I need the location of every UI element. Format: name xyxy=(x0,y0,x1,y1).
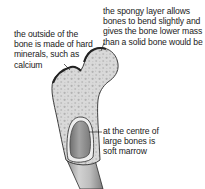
label-marrow: at the centre of large bones is soft mar… xyxy=(103,126,159,157)
marrow-cavity xyxy=(67,117,94,162)
label-line: soft marrow xyxy=(103,146,159,156)
label-line: bone is made of hard xyxy=(14,39,93,49)
label-line: calcium xyxy=(14,60,93,70)
label-line: than a solid bone would be xyxy=(103,37,203,47)
label-line: bones to bend slightly and xyxy=(103,16,203,26)
label-line: large bones is xyxy=(103,136,159,146)
label-line: minerals, such as xyxy=(14,49,93,59)
label-line: gives the bone lower mass xyxy=(103,26,203,36)
label-outer-compact-bone: the outside of the bone is made of hard … xyxy=(14,29,93,70)
bone-diagram: the outside of the bone is made of hard … xyxy=(0,0,205,189)
label-spongy-layer: the spongy layer allows bones to bend sl… xyxy=(103,6,203,47)
label-line: the outside of the xyxy=(14,29,93,39)
label-line: the spongy layer allows xyxy=(103,6,203,16)
label-line: at the centre of xyxy=(103,126,159,136)
